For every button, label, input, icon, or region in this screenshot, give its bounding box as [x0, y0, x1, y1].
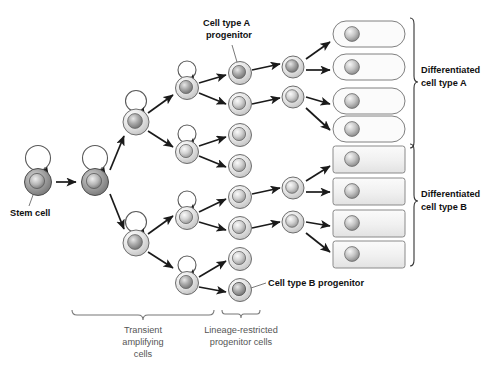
label-lineage-restricted-line1: Lineage-restricted	[204, 325, 278, 335]
label-transient-amplifying-line2: amplifying	[122, 337, 163, 347]
lineage-restricted-progenitor	[229, 248, 252, 271]
arrow-ta-to-ta	[148, 252, 173, 268]
transient-amplifying-cell	[176, 141, 199, 164]
arrow-ta-to-ta	[148, 131, 173, 147]
label-transient-amplifying-line3: cells	[134, 349, 153, 359]
differentiated-cell-type-b	[333, 178, 405, 205]
label-differentiated-cell-type-b-line1: Differentiated	[421, 189, 480, 199]
arrow-ta-to-lineage	[199, 261, 226, 277]
differentiated-cell-type-a	[333, 88, 405, 114]
arrow-committed-to-diff	[306, 166, 330, 181]
arrow-ta-to-lineage	[199, 137, 226, 146]
label-cell-type-a-progenitor-line1: Cell type A	[203, 18, 251, 28]
arrow-ta-to-lineage	[199, 222, 226, 230]
brace-transient-amplifying	[72, 310, 214, 320]
transient-amplifying-cell	[176, 77, 199, 100]
arrow-lineage-to-committed	[252, 98, 280, 104]
arrow-ta-to-lineage	[199, 287, 226, 292]
label-differentiated-cell-type-a-line2: cell type A	[421, 78, 467, 88]
label-differentiated-cell-type-a-line1: Differentiated	[421, 65, 480, 75]
committed-progenitor	[282, 56, 304, 78]
differentiated-cell-type-b	[333, 210, 405, 237]
stem-cell	[82, 169, 109, 196]
arrow-committed-to-diff	[306, 222, 330, 226]
label-cell-type-a-progenitor-line2: progenitor	[206, 30, 252, 40]
arrow-ta-to-lineage	[199, 93, 226, 104]
label-lineage-restricted-line2: progenitor cells	[210, 337, 273, 347]
label-transient-amplifying-line1: Transient	[124, 325, 162, 335]
label-cell-type-b-progenitor: Cell type B progenitor	[268, 278, 364, 288]
transient-amplifying-cell	[123, 230, 149, 256]
differentiated-cell-type-a	[333, 116, 405, 142]
committed-progenitor	[282, 211, 304, 233]
cell-type-b-progenitor	[229, 279, 252, 302]
arrow-stem-to-ta	[110, 194, 124, 229]
transient-amplifying-cell	[176, 272, 199, 295]
lineage-restricted-progenitor	[229, 62, 252, 85]
brace-differentiated-b	[410, 144, 418, 266]
transient-amplifying-cell	[123, 109, 149, 135]
differentiated-cell-type-a	[333, 21, 405, 47]
arrow-lineage-to-committed	[252, 222, 280, 228]
lineage-restricted-progenitor	[229, 124, 252, 147]
differentiated-cell-type-b	[333, 241, 405, 268]
arrow-ta-to-lineage	[199, 75, 226, 83]
differentiated-cell-type-b	[333, 146, 405, 173]
arrow-committed-to-diff	[306, 97, 330, 104]
differentiated-cell-type-a	[333, 54, 405, 80]
leader-line-stem-cell	[29, 195, 33, 206]
arrow-ta-to-lineage	[199, 199, 226, 212]
stem-cell	[25, 169, 52, 196]
arrow-ta-to-ta	[148, 95, 173, 113]
arrow-stem-to-ta	[110, 136, 124, 170]
committed-progenitor	[282, 86, 304, 108]
arrow-committed-to-diff	[306, 108, 330, 130]
label-differentiated-cell-type-b-line2: cell type B	[421, 202, 467, 212]
brace-lineage-restricted	[222, 310, 260, 318]
arrow-lineage-to-committed	[252, 64, 280, 70]
cell-lineage-diagram: Stem cell Cell type A progenitor Cell ty…	[0, 0, 490, 372]
lineage-restricted-progenitor	[229, 217, 252, 240]
arrow-committed-to-diff	[306, 42, 330, 59]
arrow-ta-to-ta	[148, 216, 173, 234]
lineage-restricted-progenitor	[229, 186, 252, 209]
brace-differentiated-a	[410, 18, 418, 148]
leader-line-cell-type-a-progenitor	[232, 45, 237, 62]
diagram-canvas: Stem cell Cell type A progenitor Cell ty…	[0, 0, 490, 372]
lineage-restricted-progenitor	[229, 155, 252, 178]
lineage-restricted-progenitor	[229, 93, 252, 116]
transient-amplifying-cell	[176, 207, 199, 230]
arrow-ta-to-lineage	[199, 156, 226, 167]
arrow-lineage-to-committed	[252, 188, 280, 194]
label-stem-cell: Stem cell	[10, 208, 50, 218]
arrow-committed-to-diff	[306, 233, 330, 252]
committed-progenitor	[282, 177, 304, 199]
leader-line-cell-type-b-progenitor	[251, 283, 266, 288]
